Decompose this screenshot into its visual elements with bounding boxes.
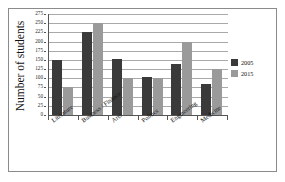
legend-label: 2005 (241, 59, 253, 66)
y-axis-tick-label: 75 (38, 85, 43, 90)
plot-area (48, 14, 228, 116)
y-axis-tick-label: 275 (35, 11, 43, 16)
legend-label: 2015 (241, 70, 253, 77)
y-axis-tick-label: 0 (40, 112, 43, 117)
bar (112, 59, 122, 115)
y-axis-tick-mark (44, 60, 46, 61)
y-axis-tick-mark (44, 106, 46, 107)
y-axis-tick-label: 225 (35, 30, 43, 35)
legend-swatch (231, 70, 238, 77)
y-axis-tick-mark (44, 87, 46, 88)
y-axis-tick-mark (44, 32, 46, 33)
bar-chart-figure: Number of students 025507510012515017520… (0, 0, 285, 182)
bar (123, 78, 133, 115)
y-axis-tick-mark (44, 69, 46, 70)
y-axis-tick-label: 150 (35, 57, 43, 62)
bar-group (198, 14, 228, 115)
y-axis-tick-mark (44, 51, 46, 52)
bar-group (139, 14, 169, 115)
y-axis-tick-mark (44, 14, 46, 15)
y-axis-tick-mark (44, 78, 46, 79)
y-axis-tick-label: 50 (38, 94, 43, 99)
bar-group (49, 14, 79, 115)
chart-legend: 20052015 (231, 58, 275, 80)
y-axis-tick-mark (44, 115, 46, 116)
y-axis-tick-mark (44, 97, 46, 98)
bar (171, 64, 181, 115)
legend-item: 2015 (231, 69, 275, 77)
y-axis-tick-label: 175 (35, 48, 43, 53)
y-axis-tick-label: 125 (35, 66, 43, 71)
legend-swatch (231, 59, 238, 66)
bar (82, 32, 92, 115)
y-axis-tick-mark (44, 42, 46, 43)
bar (52, 60, 62, 115)
y-axis-tick-label: 25 (38, 103, 43, 108)
legend-item: 2005 (231, 58, 275, 66)
x-axis-category-labels: LiteratureBusiness / FinanceArtsPolitics… (48, 118, 248, 170)
y-axis-tick-label: 200 (35, 39, 43, 44)
y-axis-tick-labels: 0255075100125150175200225250275 (18, 14, 46, 116)
y-axis-tick-label: 100 (35, 76, 43, 81)
y-axis-tick-mark (44, 23, 46, 24)
y-axis-tick-label: 250 (35, 21, 43, 26)
bars-layer (49, 14, 228, 115)
